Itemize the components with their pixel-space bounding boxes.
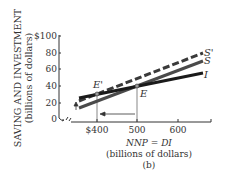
arrow-left: [100, 112, 135, 116]
y-tick-80: 80: [46, 48, 58, 58]
point-e: [135, 84, 139, 88]
arrow-up: [74, 102, 78, 110]
y-tick-40: 40: [46, 81, 58, 91]
point-e-prime: [95, 92, 99, 96]
y-tick-60: 60: [46, 64, 58, 74]
label-e: E: [139, 88, 148, 99]
x-axis-units: (billions of dollars): [106, 149, 192, 159]
x-tick-400: $400: [86, 125, 109, 135]
chart: SAVING AND INVESTMENT (billions of dolla…: [0, 0, 228, 176]
panel-label: (b): [143, 160, 156, 170]
y-axis-title: SAVING AND INVESTMENT: [12, 8, 23, 147]
y-tick-20: 20: [46, 98, 58, 108]
y-axis-units: (billions of dollars): [23, 33, 34, 124]
label-e-prime: E': [92, 79, 103, 90]
y-axis: [59, 35, 64, 121]
label-i: I: [203, 69, 209, 80]
y-tick-0: 0: [51, 114, 57, 124]
y-tick-100: $100: [34, 31, 57, 41]
x-axis-title: NNP = DI: [125, 138, 172, 148]
x-tick-600: 600: [169, 125, 186, 135]
label-s: S: [204, 55, 211, 66]
x-tick-500: 500: [128, 125, 145, 135]
x-axis: [66, 117, 211, 122]
